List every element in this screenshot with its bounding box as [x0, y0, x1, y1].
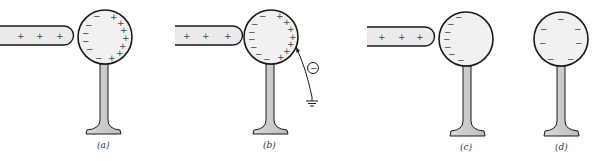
conducting-sphere: − − − − − − −	[534, 12, 588, 66]
panel-label: (b)	[263, 140, 276, 150]
rod-plus-charge: +	[378, 32, 386, 42]
rod-plus-charge: +	[398, 32, 406, 42]
induction-diagram: + + + − − − − − − + + + + + + + (a) +	[0, 0, 601, 161]
negative-charge: −	[557, 14, 565, 24]
arrow-head-icon	[296, 47, 300, 53]
ground-connection: −	[296, 47, 319, 106]
charged-rod: + + +	[175, 26, 243, 45]
negative-charge: −	[263, 54, 271, 64]
stand	[450, 66, 485, 136]
panel-label: (c)	[460, 142, 473, 152]
rod-plus-charge: +	[17, 31, 25, 41]
rod-plus-charge: +	[36, 31, 44, 41]
negative-charge: −	[86, 44, 94, 54]
conducting-sphere: − − − − − − − + + + + + + +	[244, 10, 298, 64]
negative-charge: −	[540, 24, 548, 34]
panel-label: (a)	[97, 140, 110, 150]
negative-charge: −	[457, 55, 465, 65]
rod-plus-charge: +	[183, 31, 191, 41]
electron-icon: −	[308, 63, 319, 74]
negative-charge: −	[567, 54, 575, 64]
rod-plus-charge: +	[56, 31, 64, 41]
rod-plus-charge: +	[224, 31, 232, 41]
panel-label: (d)	[555, 142, 568, 152]
stand	[86, 64, 121, 134]
panel-b: + + + − − − − − − − + + + + + + +	[175, 10, 319, 150]
negative-charge: −	[575, 38, 583, 48]
negative-charge: −	[448, 49, 456, 59]
stand	[544, 66, 579, 136]
negative-charge: −	[539, 38, 547, 48]
negative-charge: −	[547, 54, 555, 64]
stand	[253, 64, 288, 134]
charged-rod: + + +	[0, 26, 74, 45]
negative-charge: −	[574, 24, 582, 34]
rod-plus-charge: +	[202, 31, 210, 41]
negative-charge: −	[93, 11, 101, 21]
panel-c: + + + − − − − − − − (c)	[367, 12, 493, 152]
conducting-sphere: − − − − − − −	[439, 12, 493, 66]
negative-charge: −	[259, 11, 267, 21]
charged-rod: + + +	[367, 27, 435, 46]
negative-charge: −	[455, 12, 463, 22]
negative-charge: −	[95, 53, 103, 63]
rod-plus-charge: +	[416, 32, 424, 42]
panel-a: + + + − − − − − − + + + + + + + (a)	[0, 10, 132, 150]
positive-charge: +	[277, 52, 285, 62]
positive-charge: +	[108, 53, 116, 63]
positive-charge: +	[116, 48, 124, 58]
negative-charge: −	[255, 49, 263, 59]
conducting-sphere: − − − − − − + + + + + + +	[78, 10, 132, 64]
svg-text:−: −	[310, 63, 318, 73]
panel-d: − − − − − − − (d)	[534, 12, 588, 152]
ground-symbol-icon	[306, 97, 318, 106]
